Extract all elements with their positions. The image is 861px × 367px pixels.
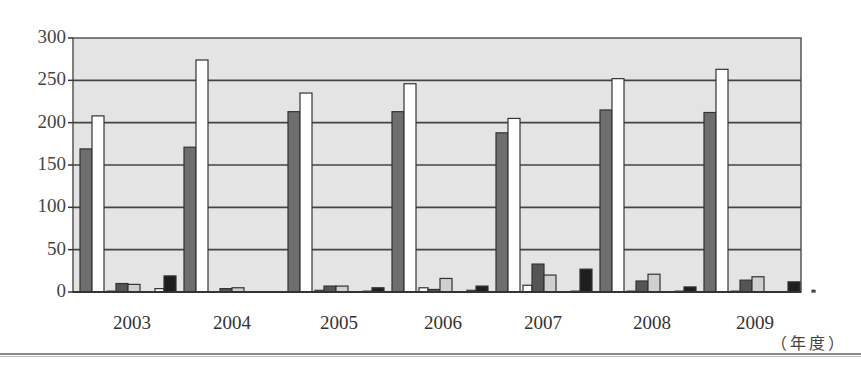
x-tick-label: 2005 — [299, 312, 379, 334]
bar — [612, 79, 624, 292]
x-axis-unit-label: （年度） — [771, 330, 847, 354]
x-tick-label: 2004 — [192, 312, 272, 334]
divider — [0, 353, 861, 355]
bar — [788, 282, 800, 292]
bar — [196, 60, 208, 292]
x-tick-label: 2007 — [503, 312, 583, 334]
bar — [184, 147, 196, 292]
bar — [496, 133, 508, 292]
bar — [636, 281, 648, 292]
bar — [740, 280, 752, 292]
bar — [508, 118, 520, 292]
bar — [164, 276, 176, 292]
bar — [288, 112, 300, 292]
x-tick-label: 2008 — [612, 312, 692, 334]
bar — [716, 69, 728, 292]
y-tick-label: 250 — [4, 69, 66, 89]
bar — [648, 274, 660, 292]
bar — [600, 110, 612, 292]
bar — [544, 275, 556, 292]
bar — [704, 113, 716, 292]
bar — [812, 290, 815, 292]
x-tick-label: 2003 — [92, 312, 172, 334]
bar — [523, 285, 532, 292]
bar-chart: 050100150200250300 200320042005200620072… — [0, 0, 861, 367]
bar — [404, 84, 416, 292]
y-tick-label: 0 — [4, 281, 66, 301]
bar — [752, 277, 764, 292]
bar — [128, 284, 140, 292]
bar — [580, 269, 592, 292]
y-tick-label: 100 — [4, 196, 66, 216]
divider — [0, 356, 861, 357]
x-tick-label: 2006 — [403, 312, 483, 334]
bar — [532, 264, 544, 292]
bar — [116, 284, 128, 292]
bar — [300, 93, 312, 292]
y-tick-label: 200 — [4, 112, 66, 132]
y-tick-label: 50 — [4, 239, 66, 259]
plot-area — [0, 0, 861, 310]
bar — [92, 116, 104, 292]
bar — [440, 278, 452, 292]
bar — [80, 149, 92, 292]
y-tick-label: 150 — [4, 154, 66, 174]
bar — [392, 112, 404, 292]
y-tick-label: 300 — [4, 27, 66, 47]
